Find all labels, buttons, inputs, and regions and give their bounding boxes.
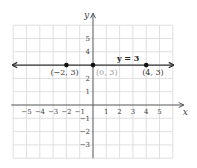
equation-label: y = 3 — [116, 53, 140, 63]
data-point — [64, 63, 69, 68]
point-label: (4, 3) — [142, 68, 164, 77]
y-tick-label: 5 — [86, 35, 90, 43]
x-tick-label: 1 — [104, 108, 108, 116]
point-label: (−2, 3) — [50, 68, 78, 77]
x-tick-label: 2 — [117, 108, 121, 116]
x-tick-label: 4 — [144, 108, 149, 116]
x-tick-label: −2 — [61, 108, 71, 116]
x-tick-label: −3 — [48, 108, 58, 116]
x-tick-label: 5 — [157, 108, 161, 116]
data-point — [144, 63, 149, 68]
y-tick-label: −3 — [80, 141, 90, 149]
x-axis-label: x — [183, 107, 188, 117]
point-label: (0, 3) — [96, 68, 118, 77]
y-tick-label: 2 — [86, 75, 90, 83]
y-tick-label: 1 — [86, 88, 90, 96]
y-axis-label: y — [83, 10, 90, 20]
x-tick-label: −4 — [35, 108, 46, 116]
y-tick-label: −2 — [80, 128, 90, 136]
x-tick-label: −5 — [21, 108, 31, 116]
annotations: y = 3 — [116, 53, 140, 63]
data-point — [91, 63, 96, 68]
coordinate-graph: xy −5−4−3−2−112345−3−2−11245 (−2, 3)(0, … — [0, 0, 197, 168]
y-tick-label: −1 — [80, 115, 90, 123]
x-tick-label: 3 — [131, 108, 135, 116]
axes: xy — [11, 10, 188, 158]
y-tick-label: 4 — [86, 48, 91, 56]
graph-canvas: xy −5−4−3−2−112345−3−2−11245 (−2, 3)(0, … — [0, 0, 197, 168]
